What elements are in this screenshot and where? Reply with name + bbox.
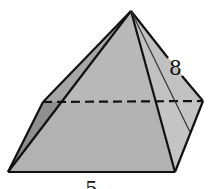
slant-height-label: 8 bbox=[169, 56, 182, 80]
pyramid-figure: 8 5 bbox=[0, 0, 220, 189]
base-edge-label: 5 bbox=[85, 177, 98, 189]
